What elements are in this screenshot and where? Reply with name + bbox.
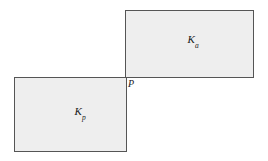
upper-rectangle-label-base: K: [187, 33, 194, 45]
upper-rectangle-label: Ka: [187, 34, 198, 48]
lower-rectangle: [14, 77, 127, 152]
upper-rectangle-label-subscript: a: [195, 41, 199, 50]
lower-rectangle-label-base: K: [74, 105, 81, 117]
lower-rectangle-label-subscript: p: [82, 113, 86, 122]
lower-rectangle-label: Kp: [74, 106, 85, 120]
figure-canvas: Ka Kp P: [0, 0, 268, 161]
corner-point-p-label: P: [128, 79, 134, 89]
